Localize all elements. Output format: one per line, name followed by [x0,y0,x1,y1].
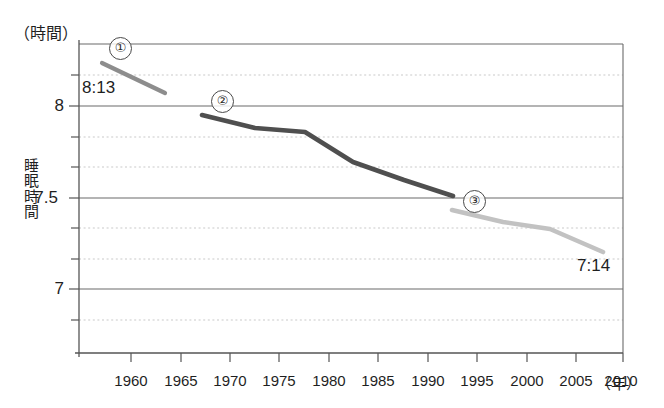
x-tick-label-1965: 1965 [158,372,204,389]
series-3-value-annotation: 7:14 [577,256,610,276]
x-axis-ticks [131,353,623,362]
series-3-marker: ③ [463,190,486,213]
plot-area [0,0,664,408]
x-tick-label-1990: 1990 [405,372,451,389]
y-axis-ticks [69,75,79,320]
y-unit-label: （時間） [14,20,78,44]
y-tick-label-7-5: 7.5 [24,188,58,208]
y-axis-title-char-2: 眠 [21,173,41,188]
y-tick-label-7: 7 [30,279,64,299]
series-1-marker: ① [109,37,132,60]
sleep-hours-line-chart: （時間） 睡 眠 時 間 [0,0,664,408]
x-tick-label-1975: 1975 [256,372,302,389]
x-tick-label-2005: 2005 [553,372,599,389]
x-tick-label-2000: 2000 [504,372,550,389]
x-tick-label-1980: 1980 [306,372,352,389]
y-axis-title-char-1: 睡 [21,158,41,173]
series-3-line [452,210,603,252]
x-axis-unit-label: （年） [596,372,641,393]
series-1-value-annotation: 8:13 [82,78,115,98]
series-2-line [202,115,453,196]
x-tick-label-1985: 1985 [355,372,401,389]
x-tick-label-1970: 1970 [207,372,253,389]
series-2-marker: ② [211,90,234,113]
x-tick-label-1995: 1995 [454,372,500,389]
x-tick-label-1960: 1960 [108,372,154,389]
y-tick-label-8: 8 [30,96,64,116]
